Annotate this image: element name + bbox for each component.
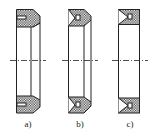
- panel-label-a: a): [18, 119, 38, 129]
- seal-c: [112, 10, 148, 114]
- seal-b: [62, 10, 98, 114]
- panel-label-c: c): [120, 119, 140, 129]
- panel-label-b: b): [70, 119, 90, 129]
- seal-a: [10, 10, 46, 114]
